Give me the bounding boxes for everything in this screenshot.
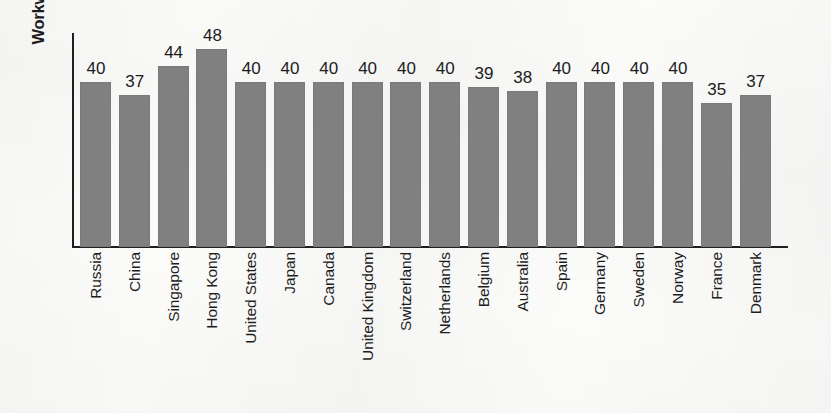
bar-value-label: 40 xyxy=(272,59,308,79)
bar-value-label: 44 xyxy=(156,43,192,63)
x-axis-tick-label-slot: Switzerland xyxy=(388,252,424,402)
x-axis-tick-label-slot: Denmark xyxy=(738,252,774,402)
bar-group: 40 xyxy=(544,33,580,247)
bar xyxy=(158,66,189,247)
x-axis-tick-label: Japan xyxy=(281,252,299,294)
bar-group: 40 xyxy=(233,33,269,247)
bar-group: 37 xyxy=(117,33,153,247)
bar-value-label: 40 xyxy=(233,59,269,79)
x-axis-tick-label: Spain xyxy=(553,252,571,291)
x-axis-tick-label: Hong Kong xyxy=(203,252,221,329)
x-axis-tick-label: Russia xyxy=(87,252,105,299)
x-axis-tick-label-slot: Russia xyxy=(78,252,114,402)
bar-value-label: 37 xyxy=(738,72,774,92)
bar-group: 40 xyxy=(272,33,308,247)
bar-value-label: 40 xyxy=(582,59,618,79)
bar-value-label: 40 xyxy=(621,59,657,79)
bar xyxy=(701,103,732,247)
bar xyxy=(119,95,150,247)
x-axis-tick-label: United States xyxy=(242,252,260,344)
x-axis-tick-label-slot: United States xyxy=(233,252,269,402)
bar-value-label: 40 xyxy=(311,59,347,79)
bar-group: 40 xyxy=(388,33,424,247)
x-axis-tick-label: United Kingdom xyxy=(359,252,377,361)
bar-group: 40 xyxy=(78,33,114,247)
x-axis-tick-label-slot: Germany xyxy=(582,252,618,402)
x-axis-tick-label-slot: Sweden xyxy=(621,252,657,402)
x-axis-tick-label: Sweden xyxy=(630,252,648,307)
bar xyxy=(468,87,499,248)
bar-group: 40 xyxy=(582,33,618,247)
bar-group: 44 xyxy=(156,33,192,247)
x-axis-tick-label-slot: Spain xyxy=(544,252,580,402)
bar-value-label: 37 xyxy=(117,72,153,92)
bar-group: 38 xyxy=(505,33,541,247)
bar-group: 40 xyxy=(350,33,386,247)
bar xyxy=(546,82,577,247)
y-axis-title: Workweek (in hours) xyxy=(18,0,58,73)
x-axis-tick-label-slot: Netherlands xyxy=(427,252,463,402)
x-axis-tick-label: France xyxy=(708,252,726,300)
bar-group: 39 xyxy=(466,33,502,247)
bar-value-label: 39 xyxy=(466,64,502,84)
bar-group: 48 xyxy=(194,33,230,247)
bar-value-label: 40 xyxy=(427,59,463,79)
x-axis-tick-label: Belgium xyxy=(475,252,493,307)
bar-group: 35 xyxy=(699,33,735,247)
x-axis-tick-label: Denmark xyxy=(747,252,765,314)
bar xyxy=(623,82,654,247)
bar-group: 40 xyxy=(660,33,696,247)
x-axis-tick-label-slot: Belgium xyxy=(466,252,502,402)
x-axis-category-labels: RussiaChinaSingaporeHong KongUnited Stat… xyxy=(78,252,778,402)
bar-value-label: 35 xyxy=(699,80,735,100)
bar xyxy=(235,82,266,247)
bar-value-label: 40 xyxy=(660,59,696,79)
bar xyxy=(429,82,460,247)
bar-value-label: 40 xyxy=(78,59,114,79)
plot-area: 403744484040404040403938404040403537 xyxy=(78,33,778,247)
x-axis-tick-label: Norway xyxy=(669,252,687,304)
bar-value-label: 40 xyxy=(388,59,424,79)
bar xyxy=(196,49,227,247)
bar xyxy=(584,82,615,247)
bar-group: 40 xyxy=(427,33,463,247)
x-axis-tick-label-slot: Singapore xyxy=(156,252,192,402)
bar xyxy=(390,82,421,247)
x-axis-tick-label: Canada xyxy=(320,252,338,306)
y-axis-line xyxy=(72,33,74,248)
x-axis-tick-label: Switzerland xyxy=(397,252,415,331)
bar xyxy=(662,82,693,247)
x-axis-tick-label-slot: United Kingdom xyxy=(350,252,386,402)
bar xyxy=(352,82,383,247)
x-axis-tick-label-slot: Hong Kong xyxy=(194,252,230,402)
bar-group: 40 xyxy=(621,33,657,247)
bar xyxy=(313,82,344,247)
x-axis-tick-label: Germany xyxy=(591,252,609,315)
bar-group: 40 xyxy=(311,33,347,247)
bar xyxy=(507,91,538,247)
bar-value-label: 40 xyxy=(544,59,580,79)
x-axis-tick-label: Australia xyxy=(514,252,532,311)
x-axis-tick-label: Netherlands xyxy=(436,252,454,334)
bar xyxy=(80,82,111,247)
x-axis-tick-label: China xyxy=(126,252,144,292)
x-axis-tick-label-slot: Japan xyxy=(272,252,308,402)
bar-value-label: 48 xyxy=(194,26,230,46)
x-axis-tick-label-slot: Australia xyxy=(505,252,541,402)
x-axis-tick-label-slot: Norway xyxy=(660,252,696,402)
bar-value-label: 40 xyxy=(350,59,386,79)
bar-group: 37 xyxy=(738,33,774,247)
x-axis-tick-label: Singapore xyxy=(165,252,183,322)
bar xyxy=(274,82,305,247)
bar xyxy=(740,95,771,247)
x-axis-tick-label-slot: Canada xyxy=(311,252,347,402)
bar-value-label: 38 xyxy=(505,68,541,88)
workweek-bar-chart: Workweek (in hours) 40374448404040404040… xyxy=(0,0,831,413)
x-axis-tick-label-slot: China xyxy=(117,252,153,402)
x-axis-tick-label-slot: France xyxy=(699,252,735,402)
